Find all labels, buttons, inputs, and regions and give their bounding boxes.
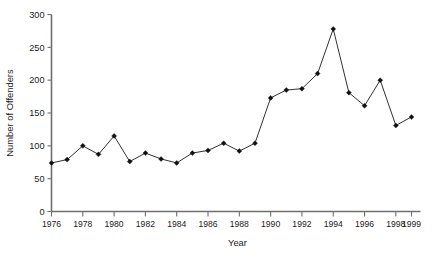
x-tick-label-1980: 1980 [105,219,124,229]
chart-canvas: 050100150200250300 197619781980198219841… [0,0,433,256]
x-axis-title: Year [228,237,247,248]
y-tick-label-250: 250 [29,43,44,53]
y-tick-label-100: 100 [29,141,44,151]
data-point-1998: 1998: 131 [393,123,398,128]
y-tick-label-300: 300 [29,10,44,20]
x-axis: 1976197819801982198419861988199019921994… [42,212,421,229]
y-tick-label-0: 0 [39,207,44,217]
x-tick-label-1986: 1986 [198,219,217,229]
data-point-1982: 1982: 89 [143,151,148,156]
x-tick-label-1999: 1999 [402,219,421,229]
x-tick-label-1996: 1996 [355,219,374,229]
data-point-1991: 1991: 185 [284,88,289,93]
data-point-1997: 1997: 200 [378,78,383,83]
data-point-1994: 1994: 278 [331,26,336,31]
x-tick-label-1982: 1982 [136,219,155,229]
data-point-1999: 1999: 144 [409,114,414,119]
data-point-1987: 1987: 104 [221,141,226,146]
line-chart: 050100150200250300 197619781980198219841… [0,0,433,256]
series-polyline [52,29,412,163]
x-tick-label-1990: 1990 [261,219,280,229]
x-tick-label-1976: 1976 [42,219,61,229]
data-point-1984: 1984: 74 [174,160,179,165]
data-point-1990: 1990: 173 [268,95,273,100]
data-point-1983: 1983: 80 [159,156,164,161]
y-tick-label-200: 200 [29,75,44,85]
data-point-1976: 1976: 74 [49,160,54,165]
y-axis: 050100150200250300 [29,10,51,217]
x-tick-label-1994: 1994 [324,219,343,229]
data-series-offenders: 1976: 741977: 791978: 1001979: 871980: 1… [49,26,414,165]
y-axis-title: Number of Offenders [4,69,15,157]
y-tick-label-50: 50 [34,174,44,184]
data-point-1981: 1981: 76 [127,159,132,164]
x-tick-label-1978: 1978 [73,219,92,229]
data-point-1985: 1985: 89 [190,151,195,156]
data-point-1986: 1986: 93 [206,148,211,153]
y-tick-label-150: 150 [29,108,44,118]
data-point-1988: 1988: 92 [237,149,242,154]
x-tick-label-1988: 1988 [230,219,249,229]
x-tick-label-1992: 1992 [292,219,311,229]
data-point-1989: 1989: 104 [252,141,257,146]
x-tick-label-1984: 1984 [167,219,186,229]
